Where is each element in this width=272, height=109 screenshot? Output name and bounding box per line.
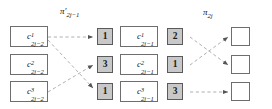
counter-value-b2: 1	[167, 56, 183, 73]
edge-c1-to-n3	[48, 40, 93, 88]
output-cell-3	[231, 82, 250, 101]
counter-value-a3: 1	[97, 83, 113, 100]
output-cell-2	[231, 55, 250, 74]
input-cell-2: c22j−2	[10, 54, 48, 75]
right-permutation-label: π2j	[203, 7, 213, 17]
edge-c3-to-n2	[48, 65, 93, 92]
counter-value-a1: 1	[97, 28, 113, 45]
output-cell-1	[231, 27, 250, 46]
input-cell-1: c12j−2	[10, 26, 48, 47]
permutation-routing-diagram: π′2j−1 π2j c12j−2 c22j−2 c32j−2 1 3 1 c1…	[0, 0, 272, 109]
intermediate-cell-3: c32j−1	[120, 81, 158, 102]
input-cell-3: c32j−2	[10, 81, 48, 102]
intermediate-cell-1: c12j−1	[120, 26, 158, 47]
intermediate-cell-2: c22j−1	[120, 54, 158, 75]
counter-value-a2: 3	[97, 56, 113, 73]
counter-value-b3: 3	[167, 83, 183, 100]
counter-value-b1: 2	[167, 28, 183, 45]
left-permutation-label: π′2j−1	[60, 6, 79, 16]
